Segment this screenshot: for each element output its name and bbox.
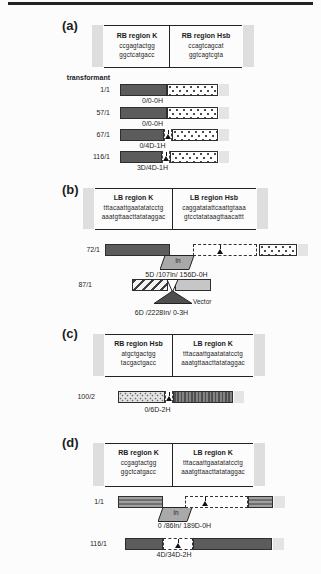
region-cell: LB region K tttacaattgaatatatcctg aaatgt… xyxy=(174,339,252,367)
sequence-line: aaatgttaacttatataggac xyxy=(181,358,245,367)
junction-caption: 0/6D-2H xyxy=(105,406,210,413)
panel-d-label: (d) xyxy=(62,435,79,450)
scan-shade xyxy=(234,391,244,403)
sequence-line: tttacaattgaatatatcctg xyxy=(104,203,164,212)
sequence-line: tacgactgacc xyxy=(121,358,156,367)
scan-shade xyxy=(83,188,94,229)
region-cell: RB region K ccgagtactgg ggctcatgacc xyxy=(106,31,168,59)
sequence-line: ccagtcagcat xyxy=(188,41,223,50)
sequence-line: ccgagtactgg xyxy=(119,41,155,50)
table-a-top-rule xyxy=(104,25,242,26)
triangle-marker-icon xyxy=(165,392,173,401)
scan-shade xyxy=(274,496,285,508)
scan-shade xyxy=(219,107,229,119)
table-a-divider xyxy=(169,25,170,67)
scan-shade xyxy=(92,25,103,67)
lb-region-k-bar xyxy=(173,391,233,403)
rb-region-k-bar xyxy=(120,129,164,141)
rb-region-hsb-bar xyxy=(118,391,165,403)
transformant-name: 1/1 xyxy=(68,86,110,93)
region-title: RB region Hsb xyxy=(114,339,163,349)
panel-b-label: (b) xyxy=(62,182,79,197)
junction-caption: 0/0-0H xyxy=(105,97,200,104)
scan-shade xyxy=(257,188,268,229)
scan-shade xyxy=(93,334,104,376)
transformant-heading: transformant xyxy=(66,74,110,81)
lb-region-hsb-bar xyxy=(259,244,297,256)
table-c-divider xyxy=(172,334,173,376)
junction-caption: 6D /2228In/ 0-3H xyxy=(95,309,228,316)
sequence-line: caggatatattcaattgtaaa xyxy=(182,203,246,212)
panel-a-label: (a) xyxy=(62,18,78,33)
region-cell: LB region K tttacaattgaatatatcctg aaatgt… xyxy=(174,448,252,476)
rb-region-k-bar xyxy=(120,84,167,96)
sequence-line: ggctcatgacc xyxy=(119,50,154,59)
top-rule xyxy=(8,2,313,5)
sequence-line: aaatgttaacttatataggac xyxy=(181,467,245,476)
table-d-top-rule xyxy=(105,443,253,444)
region-title: LB region K xyxy=(114,193,154,203)
rb-region-k-bar xyxy=(120,107,167,119)
junction-caption: 0/0-0H xyxy=(105,120,200,127)
triangle-marker-icon xyxy=(174,539,182,548)
lb-region-k-bar xyxy=(193,538,272,550)
insertion-label: In xyxy=(160,509,192,516)
junction-caption: 0 /86In/ 189D-0H xyxy=(118,522,251,529)
table-b-bottom-rule xyxy=(95,229,256,230)
region-title: LB region K xyxy=(193,339,233,349)
sequence-line: tttacaattgaatatatcctg xyxy=(183,349,243,358)
region-title: RB region K xyxy=(117,31,157,41)
figure: (a) RB region K ccgagtactgg ggctcatgacc … xyxy=(0,0,321,574)
rb-region-k-bar xyxy=(120,151,162,163)
scan-shade xyxy=(219,151,229,163)
rb-region-hsb-bar xyxy=(167,84,218,96)
table-a-bottom-rule xyxy=(104,67,242,68)
junction-caption: 3D/4D-1H xyxy=(105,164,200,171)
region-cell: RB region K ccgagtactgg ggctcatgacc xyxy=(107,448,170,476)
deletion-box xyxy=(193,244,257,256)
table-b-top-rule xyxy=(95,188,256,189)
region-cell: RB region Hsb atgctgactgg tacgactgacc xyxy=(107,339,170,367)
region-cell: LB region Hsb caggatatattcaattgtaaa gtcc… xyxy=(174,193,254,221)
region-title: LB region K xyxy=(193,448,233,458)
region-title: LB region Hsb xyxy=(190,193,238,203)
region-title: RB region Hsb xyxy=(182,31,231,41)
scan-shade xyxy=(93,443,104,486)
transformant-name: 116/1 xyxy=(65,540,107,547)
rb-region-hsb-bar xyxy=(167,107,218,119)
transformant-name: 116/1 xyxy=(68,153,110,160)
table-c-top-rule xyxy=(105,334,253,335)
deletion-box xyxy=(185,496,248,508)
triangle-marker-icon xyxy=(216,245,224,254)
rb-region-k-bar xyxy=(118,496,163,508)
region-cell: LB region K tttacaattgaatatatcctg aaatgt… xyxy=(97,193,170,221)
scan-shade xyxy=(254,443,265,486)
sequence-line: atgctgactgg xyxy=(121,349,155,358)
transformant-name: 67/1 xyxy=(68,131,110,138)
scan-shade xyxy=(219,129,229,141)
sequence-line: gtcctatataagttaacattt xyxy=(184,212,244,221)
transformant-name: 87/1 xyxy=(50,281,92,288)
scan-shade xyxy=(298,244,308,256)
rb-region-hsb-bar xyxy=(172,129,218,141)
transformant-name: 57/1 xyxy=(68,109,110,116)
table-d-bottom-rule xyxy=(105,486,253,487)
insertion-label: In xyxy=(162,257,194,264)
panel-c-label: (c) xyxy=(62,326,78,341)
scan-shade xyxy=(219,84,229,96)
transformant-name: 100/2 xyxy=(53,393,95,400)
scan-shade xyxy=(273,538,284,550)
triangle-marker-icon xyxy=(162,152,170,161)
lb-region-k-bar xyxy=(248,496,273,508)
table-b-divider xyxy=(172,188,173,229)
vector-label: Vector xyxy=(193,298,211,305)
sequence-line: aaatgttaacttatataggac xyxy=(102,212,166,221)
table-c-bottom-rule xyxy=(105,376,253,377)
triangle-marker-icon xyxy=(164,130,172,139)
junction-caption: 0/4D-1H xyxy=(105,142,200,149)
transformant-name: 72/1 xyxy=(58,246,100,253)
sequence-line: ggctcatgacc xyxy=(121,467,156,476)
scan-shade xyxy=(254,334,265,376)
junction-caption: 5D /107In/ 156D-0H xyxy=(110,271,243,278)
rb-region-k-bar xyxy=(125,538,163,550)
